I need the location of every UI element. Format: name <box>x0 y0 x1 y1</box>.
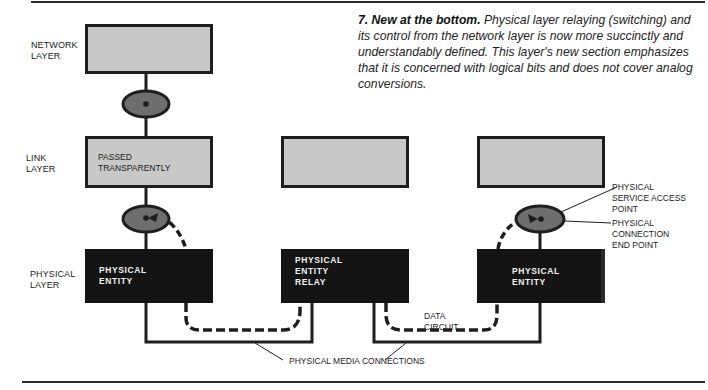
text-line: ENTITY <box>99 276 147 287</box>
network-layer-box <box>85 24 213 74</box>
physical-right-text: PHYSICAL ENTITY <box>512 266 560 288</box>
text-line: PHYSICAL <box>512 266 560 277</box>
physical-entity-box-left: PHYSICAL ENTITY <box>85 249 213 303</box>
text-line: END POINT <box>612 240 669 251</box>
text-line: PASSED <box>98 152 170 163</box>
physical-left-text: PHYSICAL ENTITY <box>99 265 147 287</box>
text-line: ENTITY <box>295 266 343 277</box>
data-circuit-label: DATA CIRCUIT <box>424 311 458 333</box>
network-sap-ellipse <box>123 91 169 117</box>
link-right-sap-ellipse <box>516 206 564 232</box>
text-line: CONNECTION <box>612 229 669 240</box>
text-line: CIRCUIT <box>424 322 458 333</box>
text-line: RELAY <box>295 277 343 288</box>
link-layer-box-left: PASSED TRANSPARENTLY <box>85 136 213 188</box>
link-left-sap-ellipse <box>123 206 169 232</box>
text-line: ENTITY <box>512 277 560 288</box>
text-line: TRANSPARENTLY <box>98 163 170 174</box>
text-line: DATA <box>424 311 458 322</box>
text-line: PHYSICAL <box>612 182 686 193</box>
physical-entity-box-right: PHYSICAL ENTITY <box>477 249 605 303</box>
text-line: POINT <box>612 204 686 215</box>
link-layer-box-right <box>477 136 605 188</box>
text-line: PHYSICAL <box>612 218 669 229</box>
service-access-point-label: PHYSICAL SERVICE ACCESS POINT <box>612 182 686 215</box>
physical-entity-relay-box: PHYSICAL ENTITY RELAY <box>281 249 409 303</box>
link-left-text: PASSED TRANSPARENTLY <box>98 152 170 174</box>
connection-end-point-label: PHYSICAL CONNECTION END POINT <box>612 218 669 251</box>
link-layer-box-middle <box>281 136 409 188</box>
physical-media-connections-label: PHYSICAL MEDIA CONNECTIONS <box>289 356 425 367</box>
physical-middle-text: PHYSICAL ENTITY RELAY <box>295 255 343 288</box>
text-line: SERVICE ACCESS <box>612 193 686 204</box>
text-line: PHYSICAL <box>99 265 147 276</box>
text-line: PHYSICAL <box>295 255 343 266</box>
